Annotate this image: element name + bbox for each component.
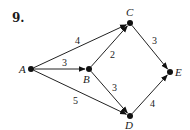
edge-c-e xyxy=(132,25,168,69)
node-label-d: D xyxy=(124,119,133,130)
edge-weight-a-d: 5 xyxy=(73,95,78,106)
edge-weight-b-c: 2 xyxy=(110,49,115,60)
edge-weight-c-e: 3 xyxy=(152,35,157,46)
node-label-c: C xyxy=(126,6,134,18)
edge-weight-d-e: 4 xyxy=(150,98,155,109)
node-label-b: B xyxy=(83,73,90,85)
edge-weight-a-c: 4 xyxy=(75,35,80,46)
node-b xyxy=(86,66,92,72)
edge-weight-b-d: 3 xyxy=(112,82,117,93)
edge-weight-a-b: 3 xyxy=(62,57,67,68)
edge-b-d xyxy=(91,71,127,113)
node-e xyxy=(167,69,173,75)
node-label-e: E xyxy=(174,66,182,78)
node-label-a: A xyxy=(18,63,26,75)
node-c xyxy=(127,20,133,26)
node-a xyxy=(28,66,34,72)
directed-graph: 4352334 ABCDE xyxy=(0,0,190,130)
node-labels-group: ABCDE xyxy=(18,6,182,130)
edge-a-c xyxy=(34,25,127,68)
edge-b-c xyxy=(91,26,127,67)
edges-group xyxy=(34,25,168,115)
